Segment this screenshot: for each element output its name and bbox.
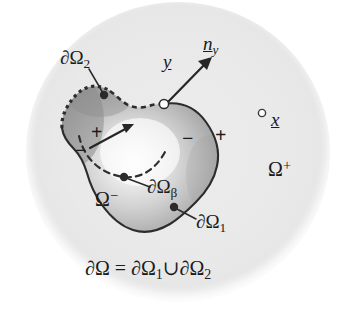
label-normal-ny-base: n	[203, 33, 213, 54]
label-point-x: x	[271, 110, 279, 129]
caption-term1-sub: 1	[156, 267, 163, 282]
label-omega-minus-base: Ω	[95, 188, 110, 210]
label-boundary-beta-sub: β	[171, 185, 178, 200]
caption-lhs: ∂Ω	[85, 257, 110, 279]
dot-boundary-beta	[120, 173, 128, 181]
marker-point-y	[159, 99, 168, 108]
label-normal-ny-sub: y	[213, 42, 219, 57]
caption-union: ∪	[163, 257, 180, 279]
figure-root: ∂Ω2 y ny x Ω+ Ω− ∂Ωβ ∂Ω1 + − − + ∂Ω = ∂Ω…	[0, 0, 357, 309]
caption-term2-base: ∂Ω	[180, 257, 205, 279]
caption-equals: =	[115, 257, 126, 279]
label-normal-ny: ny	[203, 34, 218, 56]
label-boundary-1-base: ∂Ω	[196, 211, 220, 232]
caption-term2-sub: 2	[204, 267, 211, 282]
sign-plus-outer: +	[215, 125, 226, 145]
caption-term1-base: ∂Ω	[131, 257, 156, 279]
sign-minus-middle: −	[182, 128, 193, 148]
label-omega-plus: Ω+	[268, 158, 291, 179]
dot-boundary-2	[100, 91, 108, 99]
caption-boundary-union: ∂Ω = ∂Ω1∪∂Ω2	[85, 258, 211, 282]
label-boundary-1: ∂Ω1	[196, 212, 226, 234]
label-point-x-text: x	[271, 109, 279, 130]
label-omega-minus-sup: −	[110, 187, 118, 203]
label-boundary-beta-base: ∂Ω	[147, 176, 171, 197]
label-boundary-1-sub: 1	[220, 220, 227, 235]
sign-plus-inner: +	[91, 122, 102, 142]
label-point-y: y	[163, 52, 171, 71]
sign-minus-inner: −	[75, 140, 86, 160]
label-boundary-2: ∂Ω2	[60, 48, 90, 70]
label-boundary-2-base: ∂Ω	[60, 47, 84, 68]
label-omega-plus-sup: +	[283, 157, 291, 173]
label-point-y-text: y	[163, 51, 171, 72]
label-boundary-2-sub: 2	[84, 56, 91, 71]
dot-boundary-1	[170, 203, 178, 211]
label-boundary-beta: ∂Ωβ	[147, 177, 177, 199]
label-omega-minus: Ω−	[95, 188, 118, 209]
marker-point-x	[258, 109, 265, 116]
label-omega-plus-base: Ω	[268, 158, 283, 180]
